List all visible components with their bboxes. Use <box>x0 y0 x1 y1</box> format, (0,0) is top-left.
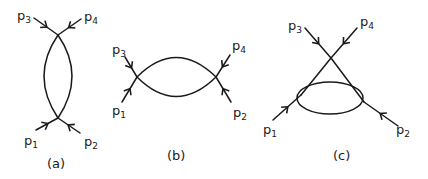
leg-p2 <box>58 118 80 133</box>
label-p3: p3 <box>17 8 31 25</box>
label-p1: p1 <box>24 133 38 150</box>
leg-p3 <box>34 18 58 35</box>
label-p4: p4 <box>232 38 246 55</box>
loop-right-propagator <box>58 35 72 118</box>
label-p4: p4 <box>84 9 98 26</box>
leg-p4 <box>331 28 357 58</box>
leg-p1 <box>36 118 58 130</box>
caption-b: (b) <box>167 148 185 163</box>
caption-c: (c) <box>333 148 350 163</box>
leg-p1 <box>122 77 137 102</box>
diagram-b: p3 p1 p4 p2 (b) <box>112 38 247 163</box>
caption-a: (a) <box>47 156 65 171</box>
label-p3: p3 <box>288 18 302 35</box>
loop-left-propagator <box>44 35 58 118</box>
leg-p2 <box>364 102 398 126</box>
label-p1: p1 <box>263 122 277 139</box>
label-p3: p3 <box>112 42 126 59</box>
leg-p3 <box>125 57 137 77</box>
leg-p3 <box>305 28 331 58</box>
label-p1: p1 <box>112 103 126 120</box>
leg-p4 <box>58 19 81 35</box>
diagram-a: p3 p4 p1 p2 (a) <box>17 8 98 171</box>
propagator-vertex-to-right <box>331 58 364 102</box>
label-p2: p2 <box>84 134 98 151</box>
loop-lower-propagator <box>137 77 216 97</box>
label-p2: p2 <box>233 105 247 122</box>
propagator-vertex-to-left <box>301 58 331 95</box>
label-p4: p4 <box>360 14 374 31</box>
leg-p2 <box>216 77 231 102</box>
loop-upper-propagator <box>137 58 216 78</box>
loop-bubble <box>297 82 363 114</box>
diagram-c: p3 p4 p1 p2 (c) <box>263 14 410 163</box>
label-p2: p2 <box>396 122 410 139</box>
feynman-diagrams-figure: p3 p4 p1 p2 (a) p3 p1 p4 p2 (b) p3 p4 p1… <box>0 0 428 179</box>
leg-p4 <box>216 55 230 77</box>
